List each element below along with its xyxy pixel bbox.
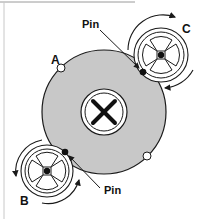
label-c: C xyxy=(182,22,191,36)
label-a: A xyxy=(51,53,60,67)
label-pin-top: Pin xyxy=(82,18,99,30)
diagram-canvas: Pin C A Pin B xyxy=(0,0,208,219)
pin-c xyxy=(140,69,147,76)
gear-c-axle xyxy=(158,52,164,58)
gear-b-axle xyxy=(44,168,50,174)
label-pin-bottom: Pin xyxy=(104,184,121,196)
notch-lower-right xyxy=(143,152,151,160)
pin-b xyxy=(62,149,69,156)
label-b: B xyxy=(20,194,29,208)
